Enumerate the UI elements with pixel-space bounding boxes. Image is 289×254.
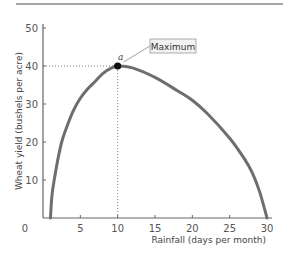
x-tick-label: 5 bbox=[77, 223, 83, 234]
y-tick-label: 50 bbox=[25, 23, 38, 34]
maximum-point bbox=[114, 62, 121, 69]
dotted-guides bbox=[43, 66, 118, 218]
x-tick-label: 30 bbox=[261, 223, 274, 234]
y-tick-label: 20 bbox=[25, 137, 38, 148]
y-tick-label: 40 bbox=[25, 61, 38, 72]
x-tick-label: 10 bbox=[111, 223, 124, 234]
callout-leader-line bbox=[124, 46, 150, 62]
y-tick-label: 30 bbox=[25, 99, 38, 110]
maximum-callout: Maximum bbox=[124, 39, 196, 62]
x-tick-label: 25 bbox=[223, 223, 236, 234]
ticks: 510152025301020304050 bbox=[25, 23, 273, 235]
point-a-label: a bbox=[118, 52, 123, 62]
x-axis-title: Rainfall (days per month) bbox=[152, 235, 266, 245]
callout-text: Maximum bbox=[151, 42, 195, 52]
x-tick-label: 20 bbox=[186, 223, 199, 234]
chart-root: 510152025301020304050 Maximum a 0 Rainfa… bbox=[0, 0, 289, 254]
origin-label: 0 bbox=[22, 223, 28, 234]
y-axis-title: Wheat yield (bushels per acre) bbox=[14, 52, 24, 190]
yield-curve bbox=[51, 66, 268, 218]
y-tick-label: 10 bbox=[25, 175, 38, 186]
x-tick-label: 15 bbox=[149, 223, 162, 234]
